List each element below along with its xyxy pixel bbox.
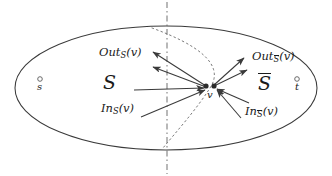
label-in-sbar-prefix: In — [245, 104, 257, 118]
region-label-sbar: S — [258, 73, 271, 93]
graph-cut-figure: OutS(v) OutS(v) InS(v) InS(v) S S v s t — [0, 0, 332, 176]
vertex-dot-right — [211, 83, 216, 88]
edge-out-s-2 — [153, 67, 206, 87]
label-in-sbar-arg: (v) — [263, 104, 278, 118]
vertex-dot-left — [203, 83, 208, 88]
label-in-s-arg: (v) — [119, 101, 134, 115]
outer-ellipse — [15, 26, 317, 150]
label-out-sbar-arg: (v) — [279, 49, 294, 63]
label-out-s-prefix: Out — [99, 45, 120, 59]
sink-label-t: t — [295, 82, 299, 92]
label-out-sbar-prefix: Out — [252, 49, 273, 63]
region-label-sbar-text: S — [258, 73, 271, 93]
label-in-s: InS(v) — [101, 103, 134, 116]
source-label-s: s — [37, 82, 42, 92]
edge-out-sbar-2 — [214, 70, 247, 86]
vertex-label-v: v — [207, 90, 213, 100]
region-label-s: S — [103, 73, 116, 92]
label-out-sbar: OutS(v) — [252, 51, 295, 64]
edge-in-s-2 — [141, 90, 205, 117]
label-out-s-arg: (v) — [126, 45, 141, 59]
label-out-sbar-subscript: S — [273, 55, 279, 64]
diagram-canvas — [0, 0, 332, 176]
label-in-s-prefix: In — [101, 101, 113, 115]
edge-out-s-1 — [153, 52, 206, 86]
edge-in-s-1 — [134, 88, 204, 90]
label-in-sbar-subscript: S — [257, 110, 263, 119]
edge-out-sbar-1 — [214, 58, 244, 85]
label-out-s: OutS(v) — [99, 47, 142, 60]
label-in-sbar: InS(v) — [245, 106, 278, 119]
